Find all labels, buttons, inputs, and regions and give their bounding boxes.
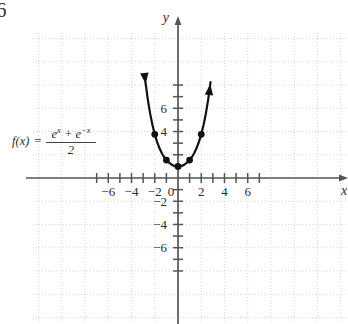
graph-figure: 6 −6−4−2024664−2−4−6yx f(x) = ex + e−x 2 <box>0 0 348 324</box>
y-axis-label: y <box>161 10 170 25</box>
y-axis-arrow <box>175 16 182 25</box>
data-point <box>186 157 193 164</box>
exp-power-1: x <box>57 125 61 135</box>
y-tick-label: −4 <box>153 217 167 232</box>
x-tick-label: 2 <box>198 184 205 199</box>
x-tick-label: 6 <box>244 184 251 199</box>
x-tick-label: −6 <box>101 184 115 199</box>
fraction-denominator: 2 <box>68 143 74 157</box>
x-tick-label: 0 <box>168 184 175 199</box>
x-axis-arrow <box>339 175 348 182</box>
y-tick-label: 4 <box>161 124 168 139</box>
data-point <box>175 163 182 170</box>
plus-sign: + <box>64 127 72 141</box>
y-tick-label: −2 <box>153 194 167 209</box>
problem-number: 6 <box>0 0 7 23</box>
x-axis-label: x <box>340 183 348 198</box>
equals-sign: = <box>32 134 43 149</box>
data-point <box>198 131 205 138</box>
function-formula: f(x) = ex + e−x 2 <box>12 126 96 157</box>
exp-power-2: −x <box>81 125 91 135</box>
function-name: f(x) <box>12 134 29 149</box>
curve-arrow-left <box>140 73 148 84</box>
fraction-numerator: ex + e−x <box>46 126 95 142</box>
y-tick-label: 6 <box>161 101 168 116</box>
coordinate-plane: −6−4−2024664−2−4−6yx <box>0 0 348 324</box>
fraction: ex + e−x 2 <box>46 126 95 157</box>
data-point <box>151 131 158 138</box>
x-tick-label: −4 <box>125 184 139 199</box>
data-point <box>163 157 170 164</box>
y-tick-label: −6 <box>153 240 167 255</box>
curve-arrow-right <box>205 84 213 95</box>
x-tick-label: 4 <box>221 184 228 199</box>
